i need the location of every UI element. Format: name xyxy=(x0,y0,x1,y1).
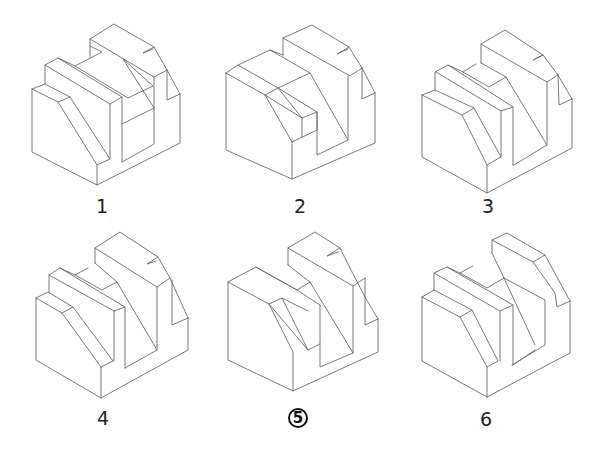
figure-edge xyxy=(422,95,572,193)
figure-edge xyxy=(32,89,180,185)
figure-edge xyxy=(460,310,498,367)
figure-edge xyxy=(288,232,340,265)
option-label-4[interactable]: 4 xyxy=(97,409,109,428)
figure-edge xyxy=(269,304,320,350)
figure-edge xyxy=(317,76,348,155)
figure-edge xyxy=(447,253,504,288)
figure-option-1[interactable] xyxy=(32,24,180,185)
figure-edge xyxy=(256,265,310,290)
figure-edge xyxy=(310,282,353,353)
figure-edge xyxy=(238,50,310,88)
figure-edge xyxy=(158,257,188,318)
option-label-1[interactable]: 1 xyxy=(96,197,108,216)
figure-edge xyxy=(340,248,378,319)
figure-edge xyxy=(58,46,102,66)
figure-edge xyxy=(226,73,292,179)
figure-edge xyxy=(265,88,278,95)
figure-edge xyxy=(436,72,501,157)
figure-option-6[interactable] xyxy=(422,233,570,397)
figure-edge xyxy=(278,88,317,118)
figure-edge xyxy=(36,298,188,398)
figure-edge xyxy=(365,278,378,325)
figure-option-4[interactable] xyxy=(36,232,188,398)
figure-edge xyxy=(32,89,70,102)
figure-edge xyxy=(90,39,167,77)
figure-edge xyxy=(500,305,513,311)
figure-edge xyxy=(32,84,70,97)
figure-option-3[interactable] xyxy=(422,30,572,193)
option-label-2[interactable]: 2 xyxy=(294,197,306,216)
figure-edge xyxy=(434,267,513,365)
figure-edge xyxy=(283,25,349,55)
figure-edge xyxy=(481,44,558,82)
figure-edge xyxy=(504,278,535,345)
figure-edge xyxy=(492,233,545,262)
figure-edge xyxy=(36,298,101,398)
figure-edge xyxy=(422,290,472,310)
figure-edge xyxy=(422,95,487,193)
figure-edge xyxy=(62,307,113,367)
figure-edge xyxy=(36,292,73,307)
figure-edge xyxy=(462,108,501,165)
figure-edge xyxy=(545,255,570,301)
figure-edge xyxy=(125,287,157,368)
figure-edge xyxy=(506,77,547,145)
figure-edge xyxy=(90,24,154,57)
figure-edge xyxy=(463,64,476,72)
figure-edge xyxy=(95,232,158,264)
figure-edge xyxy=(501,107,513,111)
figure-edge xyxy=(95,248,170,287)
figure-edge xyxy=(226,65,278,88)
figure-edge xyxy=(513,82,547,165)
figure-edge xyxy=(513,350,535,365)
figure-option-2[interactable] xyxy=(226,25,375,179)
option-label-6[interactable]: 6 xyxy=(480,410,492,429)
isometric-figures-canvas xyxy=(0,0,607,460)
figure-edge xyxy=(283,38,362,76)
figure-edge xyxy=(58,97,110,165)
figure-edge xyxy=(226,73,375,179)
figure-edge xyxy=(75,268,88,275)
figure-edge xyxy=(292,112,317,142)
figure-edge xyxy=(45,65,110,159)
figure-option-5-selected[interactable] xyxy=(228,232,378,391)
figure-edge xyxy=(310,73,348,140)
figure-edge xyxy=(269,298,308,311)
figure-edge xyxy=(265,95,302,137)
figure-edge xyxy=(481,30,543,63)
option-label-3[interactable]: 3 xyxy=(482,197,494,216)
figure-edge xyxy=(110,97,122,104)
figure-edge xyxy=(460,266,473,273)
figure-edge xyxy=(117,282,157,350)
figure-edge xyxy=(123,59,154,108)
figure-edge xyxy=(533,262,570,307)
figure-edge xyxy=(422,297,487,397)
figure-edge xyxy=(114,307,125,311)
figure-edge xyxy=(422,297,570,397)
figure-edge xyxy=(228,282,378,391)
figure-edge xyxy=(288,248,365,286)
option-label-5-circled[interactable]: 5 xyxy=(288,408,308,428)
figure-edge xyxy=(558,75,572,105)
